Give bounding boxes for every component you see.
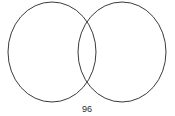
venn-diagram-canvas: 96 bbox=[0, 0, 175, 116]
figure-background bbox=[0, 0, 175, 116]
venn-caption-label: 96 bbox=[82, 104, 92, 114]
venn-diagram-figure: 96 bbox=[0, 0, 175, 116]
